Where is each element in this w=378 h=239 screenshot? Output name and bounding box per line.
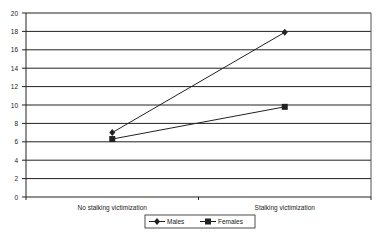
y-tick-label: 2	[14, 175, 18, 182]
y-tick-label: 16	[11, 46, 19, 53]
x-category-label: Stalking victimization	[255, 204, 316, 212]
x-axis: No stalking victimizationStalking victim…	[26, 197, 371, 212]
series-group	[109, 29, 288, 142]
y-tick-label: 12	[11, 83, 19, 90]
chart-canvas: 02468101214161820 No stalking victimizat…	[0, 0, 378, 239]
diamond-marker-icon	[109, 129, 115, 136]
legend-label: Females	[218, 218, 244, 225]
y-tick-label: 14	[11, 65, 19, 72]
y-tick-label: 6	[14, 138, 18, 145]
y-tick-label: 8	[14, 120, 18, 127]
y-tick-label: 4	[14, 157, 18, 164]
y-tick-label: 18	[11, 28, 19, 35]
y-tick-label: 20	[11, 10, 19, 17]
legend-entry-females: Females	[200, 218, 244, 225]
line-chart: 02468101214161820 No stalking victimizat…	[0, 0, 378, 239]
diamond-marker-icon	[282, 29, 288, 36]
legend: MalesFemales	[145, 215, 255, 228]
legend-label: Males	[167, 218, 185, 225]
square-marker-icon	[205, 219, 211, 225]
series-line	[112, 32, 285, 132]
gridlines	[26, 13, 371, 179]
y-tick-label: 10	[11, 102, 19, 109]
square-marker-icon	[282, 104, 288, 110]
series-males	[109, 29, 288, 136]
x-category-label: No stalking victimization	[78, 204, 148, 212]
square-marker-icon	[109, 136, 115, 142]
y-tick-label: 0	[14, 194, 18, 201]
